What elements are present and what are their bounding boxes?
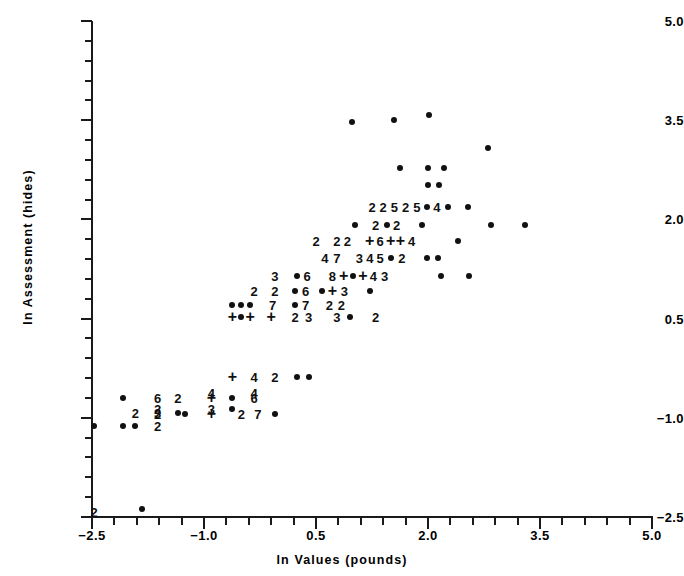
y-axis-minor-tick <box>85 80 92 82</box>
y-axis-minor-tick <box>85 357 92 359</box>
x-axis-tick-label: −1.0 <box>190 528 217 543</box>
y-axis-major-tick <box>81 417 92 419</box>
data-point-dot <box>139 506 145 512</box>
x-axis-minor-tick <box>270 518 272 525</box>
data-point-dot <box>120 395 126 401</box>
data-point-count: 2 <box>398 251 405 264</box>
data-point-count: 2 <box>174 391 181 404</box>
data-point-plus: + <box>339 268 348 284</box>
y-axis-minor-tick <box>85 337 92 339</box>
x-axis-line <box>91 516 653 518</box>
data-point-count: 4 <box>321 251 328 264</box>
data-point-count: 2 <box>291 311 298 324</box>
data-point-count: 2 <box>271 284 278 297</box>
data-point-dot <box>350 273 356 279</box>
y-axis-minor-tick <box>85 377 92 379</box>
data-point-dot <box>419 222 425 228</box>
x-axis-minor-tick <box>517 518 519 525</box>
y-axis-minor-tick <box>85 179 92 181</box>
data-point-count: 6 <box>377 234 384 247</box>
y-axis-minor-tick <box>85 456 92 458</box>
x-axis-minor-tick <box>584 518 586 525</box>
y-axis-title: ln Assessment (hides) <box>21 97 35 397</box>
data-point-dot <box>347 314 353 320</box>
data-point-count: 5 <box>377 251 384 264</box>
data-point-count: 4 <box>366 251 373 264</box>
data-point-dot <box>425 165 431 171</box>
data-point-dot <box>424 204 430 210</box>
data-point-dot <box>436 182 442 188</box>
x-axis-minor-tick <box>382 518 384 525</box>
data-point-dot <box>175 410 181 416</box>
y-axis-minor-tick <box>85 238 92 240</box>
data-point-count: 2 <box>250 284 257 297</box>
y-axis-minor-tick <box>85 496 92 498</box>
y-axis-tick-label: −1.0 <box>608 410 684 425</box>
data-point-dot <box>397 165 403 171</box>
data-point-count: 7 <box>302 299 309 312</box>
data-point-count: 3 <box>154 406 161 419</box>
data-point-plus: + <box>358 268 367 284</box>
y-axis-minor-tick <box>85 139 92 141</box>
data-point-dot <box>229 406 235 412</box>
y-axis-minor-tick <box>85 476 92 478</box>
y-axis-major-tick <box>81 218 92 220</box>
y-axis-minor-tick <box>85 199 92 201</box>
data-point-count: 4 <box>250 386 257 399</box>
data-point-dot <box>522 222 528 228</box>
x-axis-tick-label: 3.5 <box>530 528 549 543</box>
y-axis-tick-label: −2.5 <box>608 510 684 525</box>
data-point-dot <box>384 222 390 228</box>
data-point-dot <box>424 255 430 261</box>
x-axis-minor-tick <box>181 518 183 525</box>
data-point-dot <box>367 288 373 294</box>
data-point-count: 2 <box>372 218 379 231</box>
x-axis-tick-label: 0.5 <box>306 528 325 543</box>
data-point-dot <box>292 288 298 294</box>
y-axis-tick-label: 0.5 <box>608 311 684 326</box>
x-axis-minor-tick <box>472 518 474 525</box>
x-axis-minor-tick <box>405 518 407 525</box>
x-axis-minor-tick <box>449 518 451 525</box>
data-point-dot <box>132 423 138 429</box>
data-point-plus: + <box>228 309 237 325</box>
data-point-dot <box>238 302 244 308</box>
y-axis-major-tick <box>81 119 92 121</box>
x-axis-title: ln Values (pounds) <box>0 553 684 567</box>
data-point-dot <box>306 374 312 380</box>
data-point-dot <box>388 255 394 261</box>
data-point-count: 4 <box>208 386 215 399</box>
data-point-dot <box>466 273 472 279</box>
data-point-plus: + <box>365 233 374 249</box>
x-axis-minor-tick <box>158 518 160 525</box>
y-axis-minor-tick <box>85 437 92 439</box>
data-point-count: 2 <box>91 505 98 518</box>
data-point-dot <box>272 411 278 417</box>
data-point-count: 2 <box>402 201 409 214</box>
y-axis-minor-tick <box>85 60 92 62</box>
x-axis-tick-label: 5.0 <box>642 528 661 543</box>
data-point-dot <box>391 117 397 123</box>
data-point-dot <box>120 423 126 429</box>
data-point-dot <box>438 273 444 279</box>
y-axis-major-tick <box>81 318 92 320</box>
y-axis-tick-label: 5.0 <box>608 14 684 29</box>
data-point-plus: + <box>246 309 255 325</box>
data-point-count: 5 <box>413 201 420 214</box>
x-axis-minor-tick <box>248 518 250 525</box>
x-axis-minor-tick <box>360 518 362 525</box>
data-point-count: 2 <box>393 218 400 231</box>
data-point-count: 2 <box>271 370 278 383</box>
data-point-dot <box>229 302 235 308</box>
x-axis-minor-tick <box>136 518 138 525</box>
data-point-plus: + <box>207 406 216 422</box>
data-point-count: 2 <box>368 201 375 214</box>
y-axis-minor-tick <box>85 99 92 101</box>
x-axis-tick-label: 2.0 <box>418 528 437 543</box>
data-point-dot <box>488 222 494 228</box>
data-point-plus: + <box>328 283 337 299</box>
data-point-count: 2 <box>132 406 139 419</box>
y-axis-minor-tick <box>85 40 92 42</box>
data-point-dot <box>485 145 491 151</box>
data-point-dot <box>426 112 432 118</box>
